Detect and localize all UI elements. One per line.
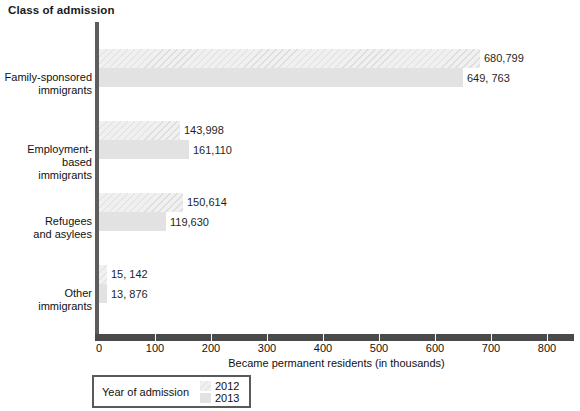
y-axis-title: Class of admission	[8, 4, 115, 16]
bar-value-2012: 143,998	[180, 124, 224, 136]
x-axis-line	[95, 334, 574, 341]
category-label-line: and asylees	[0, 228, 92, 241]
legend-swatch-icon	[200, 393, 211, 403]
x-axis-tick	[211, 334, 212, 341]
x-axis-tick-label: 0	[96, 342, 102, 354]
plot-area: 680,799 649, 763 143,998 161,110 150,614…	[99, 22, 574, 334]
x-axis-tick	[379, 334, 380, 341]
x-axis-tick-label: 100	[146, 342, 164, 354]
x-axis-tick	[547, 334, 548, 341]
bar-value-2013: 119,630	[166, 216, 209, 228]
bar-2013[interactable]	[99, 212, 166, 231]
bar-value-2013: 649, 763	[463, 72, 510, 84]
legend-swatch-icon	[200, 381, 211, 391]
category-label-line: immigrants	[0, 84, 92, 97]
category-label-line: immigrants	[0, 169, 92, 182]
x-axis-tick-label: 200	[202, 342, 220, 354]
x-axis-tick	[435, 334, 436, 341]
bar-value-2012: 15, 142	[107, 268, 148, 280]
x-axis-tick-label: 700	[482, 342, 500, 354]
bar-value-2013: 161,110	[189, 144, 232, 156]
bar-2012[interactable]	[99, 121, 180, 140]
legend-entry-label: 2013	[215, 392, 239, 404]
category-label-refugees-asylees: Refugees and asylees	[0, 215, 92, 241]
legend-entry-2013[interactable]: 2013	[200, 392, 239, 404]
bar-2012[interactable]	[99, 49, 480, 68]
legend-entry-label: 2012	[215, 380, 239, 392]
category-label-other-immigrants: Other immigrants	[0, 287, 92, 313]
x-axis-tick	[491, 334, 492, 341]
category-label-employment-based: Employment-based immigrants	[0, 143, 92, 182]
bar-2013[interactable]	[99, 68, 463, 87]
x-axis-tick-label: 500	[370, 342, 388, 354]
bar-value-2012: 680,799	[480, 52, 524, 64]
category-axis-labels: Family-sponsored immigrants Employment-b…	[0, 22, 92, 334]
legend-entry-2012[interactable]: 2012	[200, 380, 239, 392]
x-axis-tick	[267, 334, 268, 341]
legend: Year of admission 2012 2013	[92, 375, 251, 408]
x-axis-tick	[155, 334, 156, 341]
category-label-line: Employment-based	[0, 143, 92, 169]
category-label-line: Refugees	[0, 215, 92, 228]
x-axis-tick	[323, 334, 324, 341]
x-axis-tick-label: 600	[426, 342, 444, 354]
category-label-line: Other	[0, 287, 92, 300]
bar-2012[interactable]	[99, 265, 107, 284]
legend-title: Year of admission	[102, 386, 189, 398]
x-axis-tick-label: 300	[258, 342, 276, 354]
bar-value-2013: 13, 876	[107, 288, 148, 300]
bar-2012[interactable]	[99, 193, 183, 212]
category-label-line: Family-sponsored	[0, 71, 92, 84]
x-axis-tick-label: 400	[314, 342, 332, 354]
bar-chart: Class of admission Family-sponsored immi…	[0, 0, 580, 411]
bar-value-2012: 150,614	[183, 196, 227, 208]
category-label-family-sponsored: Family-sponsored immigrants	[0, 71, 92, 97]
x-axis-title: Became permanent residents (in thousands…	[99, 357, 574, 369]
x-axis-tick-label: 800	[538, 342, 556, 354]
bar-2013[interactable]	[99, 140, 189, 159]
category-label-line: immigrants	[0, 300, 92, 313]
bar-2013[interactable]	[99, 284, 107, 303]
